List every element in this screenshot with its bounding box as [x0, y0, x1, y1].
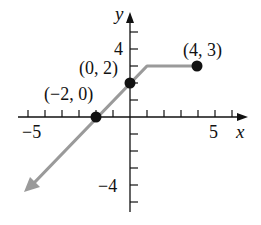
piecewise-graph: x y −5 5 4 −4 (−2, 0) (0, 2) (4, 3) [0, 0, 261, 225]
point-neg2-0 [91, 112, 102, 123]
y-axis-label: y [113, 3, 124, 24]
x-axis [18, 110, 248, 121]
y-tick-label-neg4: −4 [98, 176, 117, 196]
point-4-3 [192, 61, 203, 72]
point-label-0-2: (0, 2) [79, 58, 118, 79]
x-tick-label-5: 5 [209, 122, 218, 142]
point-label-4-3: (4, 3) [183, 40, 222, 61]
y-tick-label-4: 4 [114, 39, 123, 59]
x-tick-label-neg5: −5 [22, 122, 41, 142]
point-label-neg2-0: (−2, 0) [44, 84, 93, 105]
y-axis [126, 12, 138, 212]
x-axis-label: x [235, 121, 245, 142]
point-0-2 [125, 78, 136, 89]
